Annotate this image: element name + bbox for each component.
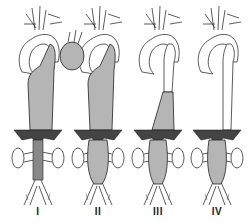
panel-label-i: I <box>23 206 53 217</box>
aorta-diagram <box>0 0 249 223</box>
abdominal-aneurysm <box>88 140 109 184</box>
panel-iii <box>132 6 184 205</box>
aneurysm-segment <box>152 92 174 130</box>
abdominal-aneurysm <box>208 140 227 184</box>
abdominal-aneurysm <box>149 140 168 184</box>
panel-label-iii: III <box>143 206 173 217</box>
panel-label-iv: IV <box>202 206 232 217</box>
panel-ii <box>60 6 124 205</box>
panel-iv <box>191 6 243 205</box>
arch-aneurysm <box>60 42 84 70</box>
aneurysm-segment <box>88 44 115 130</box>
panel-label-ii: II <box>83 206 113 217</box>
aneurysm-segment <box>28 44 55 130</box>
panel-i <box>12 6 64 205</box>
